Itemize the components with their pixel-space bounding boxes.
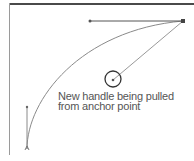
- bezier-diagram: [0, 0, 194, 161]
- top-anchor-point-icon[interactable]: [181, 19, 185, 23]
- vertical-handle-endpoint[interactable]: [26, 106, 28, 108]
- caption-line-2: from anchor point: [58, 101, 174, 111]
- horizontal-handle-endpoint[interactable]: [89, 20, 92, 23]
- new-handle-endpoint[interactable]: [112, 79, 115, 82]
- caption: New handle being pulled from anchor poin…: [58, 91, 174, 111]
- new-handle-line: [113, 21, 183, 80]
